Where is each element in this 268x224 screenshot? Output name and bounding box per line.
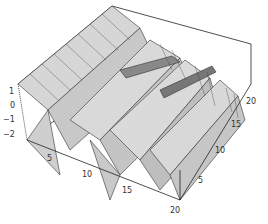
surface-plot: 1 0 −1 −2 5 10 15 20 5 10 15 20 [0,0,268,224]
x-tick: 20 [170,206,180,215]
y-tick: 10 [215,146,225,155]
z-tick: 1 [9,87,14,96]
y-tick: 5 [198,176,203,185]
x-tick: 15 [122,186,132,195]
x-tick: 5 [47,154,52,163]
z-tick: 0 [10,101,15,110]
y-tick: 20 [246,97,256,106]
surface [18,6,245,200]
z-axis-ticks: 1 0 −1 −2 [3,87,15,139]
z-tick: −1 [3,115,15,124]
y-tick: 15 [231,120,241,129]
x-tick: 10 [82,170,92,179]
z-tick: −2 [3,130,15,139]
